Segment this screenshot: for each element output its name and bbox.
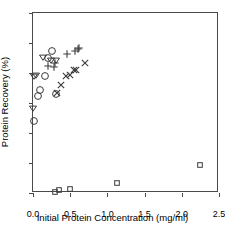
data-point-square bbox=[114, 179, 121, 186]
data-point-triangle-down bbox=[31, 70, 40, 79]
data-point-square bbox=[51, 188, 58, 195]
x-axis-tick bbox=[70, 193, 71, 197]
y-axis-tick bbox=[29, 163, 33, 164]
x-axis-tick bbox=[107, 193, 108, 197]
x-axis-tick bbox=[182, 193, 183, 197]
data-point-plus bbox=[43, 61, 52, 70]
data-point-plus bbox=[49, 63, 58, 72]
x-axis-tick bbox=[145, 193, 146, 197]
data-point-circle bbox=[40, 72, 49, 81]
y-axis-tick bbox=[29, 73, 33, 74]
data-point-triangle-down bbox=[38, 52, 47, 61]
data-point-cross bbox=[72, 66, 81, 75]
data-point-square bbox=[197, 161, 204, 168]
data-point-plus bbox=[50, 58, 59, 67]
x-axis-tick-label: 2.5 bbox=[213, 209, 225, 219]
data-point-cross bbox=[81, 58, 90, 67]
data-point-cross bbox=[62, 72, 71, 81]
data-point-cross bbox=[69, 66, 78, 75]
data-point-triangle-down bbox=[46, 55, 55, 64]
plot-area: 0204060801001200.00.51.01.52.02.5 bbox=[32, 12, 218, 192]
y-axis-tick bbox=[29, 13, 33, 14]
x-axis-tick-label: 0.0 bbox=[27, 209, 40, 219]
data-points-layer bbox=[33, 13, 217, 191]
data-point-circle bbox=[29, 117, 38, 126]
data-point-circle bbox=[43, 54, 52, 63]
data-point-plus bbox=[73, 45, 82, 54]
x-axis-tick-label: 2.0 bbox=[176, 209, 189, 219]
data-point-circle bbox=[34, 91, 43, 100]
data-point-triangle-down bbox=[52, 55, 61, 64]
data-point-plus bbox=[63, 49, 72, 58]
y-axis-tick bbox=[29, 43, 33, 44]
x-axis-tick bbox=[219, 193, 220, 197]
y-axis-title: Protein Recovery (%) bbox=[0, 57, 10, 147]
data-point-plus bbox=[75, 43, 84, 52]
data-point-cross bbox=[66, 70, 75, 79]
data-point-cross bbox=[52, 88, 61, 97]
x-axis-tick-label: 0.5 bbox=[64, 209, 77, 219]
data-point-square bbox=[56, 187, 63, 194]
x-axis-tick-label: 1.5 bbox=[138, 209, 151, 219]
scatter-plot-figure: Protein Recovery (%) Initial Protein Con… bbox=[0, 0, 225, 231]
x-axis-tick-label: 1.0 bbox=[101, 209, 114, 219]
data-point-square bbox=[67, 185, 74, 192]
data-point-plus bbox=[70, 46, 79, 55]
data-point-circle bbox=[48, 46, 57, 55]
data-point-circle bbox=[36, 85, 45, 94]
data-point-triangle-down bbox=[29, 103, 38, 112]
data-point-cross bbox=[56, 81, 65, 90]
x-axis-tick bbox=[33, 193, 34, 197]
data-point-circle bbox=[52, 90, 61, 99]
y-axis-tick bbox=[29, 133, 33, 134]
y-axis-tick bbox=[29, 103, 33, 104]
